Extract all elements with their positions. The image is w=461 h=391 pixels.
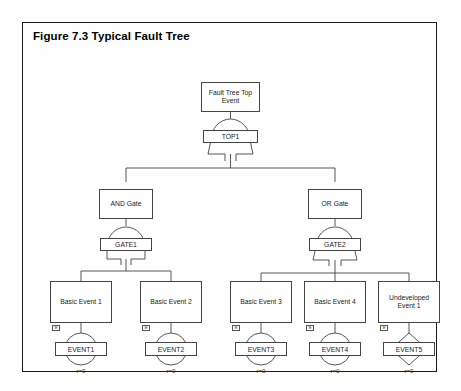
gate-GATE1[interactable]: GATE1 (100, 238, 152, 251)
rate-label-EVENT5: r=0 (389, 367, 429, 374)
ie-tag-EVENT3[interactable]: IE (232, 325, 240, 331)
gate-GATE1-label: GATE1 (115, 241, 137, 248)
event-box-undeveloped-event-1-label: Undeveloped Event 1 (380, 294, 438, 311)
ie-tag-EVENT4[interactable]: IE (306, 325, 314, 331)
rate-label-EVENT1: r=0 (61, 367, 101, 374)
gate-TOP1[interactable]: TOP1 (203, 130, 258, 143)
rate-label-EVENT2: r=0 (151, 367, 191, 374)
event-box-basic-event-1[interactable]: Basic Event 1 (50, 281, 112, 323)
ie-tag-EVENT1-label: IE (55, 326, 58, 330)
leaf-EVENT4-label: EVENT4 (322, 346, 348, 353)
leaf-EVENT3-label: EVENT3 (248, 346, 274, 353)
figure-frame: Figure 7.3 Typical Fault Tree (22, 22, 437, 372)
event-box-basic-event-3-label: Basic Event 3 (240, 298, 282, 306)
and-gate-box[interactable]: AND Gate (99, 189, 153, 219)
rate-label-EVENT4: r=0 (315, 367, 355, 374)
event-box-basic-event-2[interactable]: Basic Event 2 (140, 281, 202, 323)
event-box-basic-event-4-label: Basic Event 4 (314, 298, 356, 306)
ie-tag-EVENT4-label: IE (309, 326, 312, 330)
fault-tree-diagram: Fault Tree Top Event TOP1 AND Gate GATE1… (23, 23, 438, 373)
ie-tag-EVENT5-label: IE (383, 326, 386, 330)
event-box-basic-event-2-label: Basic Event 2 (150, 298, 192, 306)
and-gate-box-label: AND Gate (111, 200, 142, 208)
leaf-EVENT2-label: EVENT2 (158, 346, 184, 353)
leaf-EVENT5-label: EVENT5 (396, 346, 422, 353)
or-gate-box-label: OR Gate (322, 200, 349, 208)
gate-GATE2[interactable]: GATE2 (309, 238, 361, 251)
rate-label-EVENT3: r=0 (241, 367, 281, 374)
top-event-label: Fault Tree Top Event (203, 89, 258, 106)
leaf-EVENT1[interactable]: EVENT1 (55, 342, 107, 356)
leaf-EVENT1-label: EVENT1 (68, 346, 94, 353)
ie-tag-EVENT3-label: IE (235, 326, 238, 330)
gate-TOP1-label: TOP1 (222, 133, 240, 140)
top-event-box[interactable]: Fault Tree Top Event (201, 82, 260, 112)
ie-tag-EVENT2[interactable]: IE (142, 325, 150, 331)
ie-tag-EVENT2-label: IE (145, 326, 148, 330)
event-box-undeveloped-event-1[interactable]: Undeveloped Event 1 (378, 281, 440, 323)
or-gate-box[interactable]: OR Gate (308, 189, 362, 219)
ie-tag-EVENT1[interactable]: IE (52, 325, 60, 331)
leaf-EVENT2[interactable]: EVENT2 (145, 342, 197, 356)
leaf-EVENT4[interactable]: EVENT4 (309, 342, 361, 356)
ie-tag-EVENT5[interactable]: IE (380, 325, 388, 331)
gate-GATE2-label: GATE2 (324, 241, 346, 248)
event-box-basic-event-1-label: Basic Event 1 (60, 298, 102, 306)
leaf-EVENT3[interactable]: EVENT3 (235, 342, 287, 356)
event-box-basic-event-4[interactable]: Basic Event 4 (304, 281, 366, 323)
event-box-basic-event-3[interactable]: Basic Event 3 (230, 281, 292, 323)
leaf-EVENT5[interactable]: EVENT5 (383, 342, 435, 356)
